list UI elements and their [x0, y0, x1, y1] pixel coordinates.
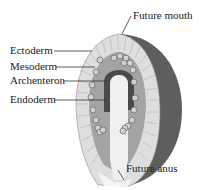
label-ectoderm: Ectoderm: [10, 44, 53, 56]
label-mesoderm: Mesoderm: [10, 60, 57, 72]
label-endoderm: Endoderm: [10, 93, 56, 105]
label-future-anus: Future anus: [126, 162, 178, 174]
label-future-mouth: Future mouth: [133, 9, 193, 21]
label-archenteron: Archenteron: [10, 74, 65, 86]
gastrula-diagram: Future mouth Ectoderm Mesoderm Archenter…: [0, 0, 199, 190]
